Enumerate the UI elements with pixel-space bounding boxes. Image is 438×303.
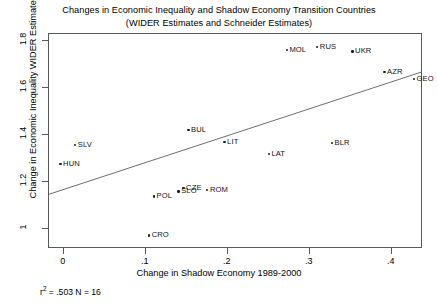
y-tick-label: 1.8 <box>18 22 28 56</box>
plot-area: HUNSLVCROPOLSLOCZEBULROMLITLATMOLRUSBLRU… <box>48 33 422 248</box>
chart-page: Changes in Economic Inequality and Shado… <box>0 0 438 303</box>
data-point <box>223 141 225 143</box>
data-point-label: CRO <box>152 230 169 239</box>
data-point-label: CZE <box>186 183 202 192</box>
data-point-label: LAT <box>271 149 285 158</box>
y-tick-label: 1.6 <box>18 69 28 103</box>
chart-annotation: r2 = .503 N = 16 <box>40 285 101 297</box>
data-point <box>351 50 353 52</box>
data-point <box>177 190 179 192</box>
data-point <box>383 71 385 73</box>
annotation-stats: = .503 N = 16 <box>46 287 100 297</box>
data-point <box>153 195 155 197</box>
data-point-label: SLV <box>78 140 92 149</box>
chart-title: Changes in Economic Inequality and Shado… <box>0 4 438 17</box>
data-point-label: GEO <box>417 74 434 83</box>
data-point <box>187 129 189 131</box>
y-tick-label: 1.4 <box>18 116 28 150</box>
data-point-label: LIT <box>227 137 238 146</box>
chart-subtitle: (WIDER Estimates and Schneider Estimates… <box>0 17 438 30</box>
data-point-label: UKR <box>355 46 371 55</box>
data-point-label: HUN <box>63 159 80 168</box>
chart-title-block: Changes in Economic Inequality and Shado… <box>0 4 438 29</box>
x-tick-label: 0 <box>51 256 75 266</box>
data-point-label: BUL <box>191 125 206 134</box>
data-point-label: BLR <box>335 138 350 147</box>
data-point <box>148 234 150 236</box>
x-tick-label: .2 <box>215 256 239 266</box>
y-tick-label: 1.2 <box>18 163 28 197</box>
data-point-label: AZR <box>387 67 403 76</box>
data-point-label: ROM <box>210 185 228 194</box>
data-point-label: MOL <box>289 45 306 54</box>
x-tick-label: .1 <box>133 256 157 266</box>
data-point-label: RUS <box>320 42 336 51</box>
data-point-label: POL <box>157 191 173 200</box>
y-tick-label: 1 <box>18 210 28 244</box>
x-tick-label: .4 <box>379 256 403 266</box>
x-tick-label: .3 <box>297 256 321 266</box>
x-axis-label: Change in Shadow Economy 1989-2000 <box>0 268 438 278</box>
y-axis-label: Change in Economic Inequality WIDER Esti… <box>28 0 38 207</box>
